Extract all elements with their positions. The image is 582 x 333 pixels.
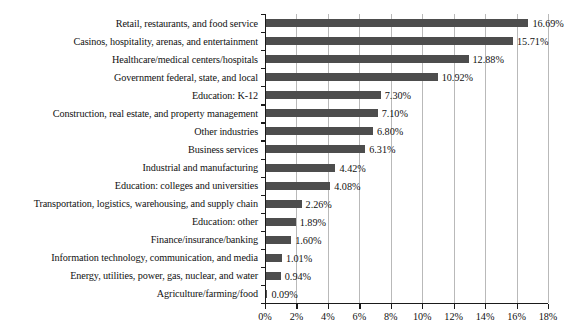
- bar-fill: [266, 127, 373, 135]
- bar-value-label: 15.71%: [517, 36, 548, 47]
- bar-value-label: 4.42%: [339, 162, 365, 173]
- category-label: Education: K-12: [0, 90, 262, 101]
- y-axis-tick: [261, 231, 265, 232]
- bar-fill: [266, 91, 381, 99]
- y-axis-tick: [261, 86, 265, 87]
- bar: 7.10%: [266, 109, 378, 117]
- x-axis-tick: [391, 304, 392, 309]
- category-label: Casinos, hospitality, arenas, and entert…: [0, 36, 262, 47]
- bar-value-label: 1.01%: [286, 252, 312, 263]
- bar-fill: [266, 164, 335, 172]
- x-axis-tick-label: 6%: [353, 311, 367, 322]
- bar-fill: [266, 290, 267, 298]
- bar: 0.94%: [266, 272, 281, 280]
- category-label: Industrial and manufacturing: [0, 162, 262, 173]
- category-label: Government federal, state, and local: [0, 72, 262, 83]
- bar-value-label: 2.26%: [306, 198, 332, 209]
- bar: 1.89%: [266, 218, 296, 226]
- y-axis-tick: [261, 267, 265, 268]
- category-label: Finance/insurance/banking: [0, 234, 262, 245]
- x-axis-tick-label: 14%: [476, 311, 495, 322]
- x-axis-tick-label: 4%: [321, 311, 335, 322]
- x-axis-tick-label: 2%: [290, 311, 304, 322]
- x-axis-tick: [485, 304, 486, 309]
- bar: 16.69%: [266, 19, 528, 27]
- y-axis-tick: [261, 14, 265, 15]
- x-axis-tick: [359, 304, 360, 309]
- y-axis-tick: [261, 50, 265, 51]
- bar-fill: [266, 254, 282, 262]
- bar-fill: [266, 145, 365, 153]
- x-axis-tick-label: 18%: [539, 311, 558, 322]
- y-axis-tick: [261, 104, 265, 105]
- bar: 12.88%: [266, 55, 469, 63]
- y-axis-tick: [261, 285, 265, 286]
- bar: 1.01%: [266, 254, 282, 262]
- bar-value-label: 0.09%: [271, 288, 297, 299]
- y-axis-tick: [261, 32, 265, 33]
- bar-value-label: 16.69%: [532, 18, 563, 29]
- bar-value-label: 0.94%: [285, 270, 311, 281]
- gridline: [548, 14, 549, 303]
- bar: 1.60%: [266, 236, 291, 244]
- y-axis-tick: [261, 68, 265, 69]
- bar: 6.80%: [266, 127, 373, 135]
- y-axis-tick: [261, 177, 265, 178]
- bar-value-label: 10.92%: [442, 72, 473, 83]
- bar-fill: [266, 218, 296, 226]
- x-axis-tick-label: 12%: [444, 311, 463, 322]
- x-axis-labels: 0%2%4%6%8%10%12%14%16%18%: [265, 304, 548, 332]
- bar: 7.30%: [266, 91, 381, 99]
- x-axis-tick-label: 0%: [258, 311, 272, 322]
- bar-value-label: 6.31%: [369, 144, 395, 155]
- bar-value-label: 7.30%: [385, 90, 411, 101]
- bar-fill: [266, 37, 513, 45]
- bar-fill: [266, 200, 302, 208]
- x-axis-tick-label: 10%: [413, 311, 432, 322]
- y-axis-tick: [261, 122, 265, 123]
- bar-fill: [266, 55, 469, 63]
- bar: 15.71%: [266, 37, 513, 45]
- category-label: Business services: [0, 144, 262, 155]
- x-axis-tick: [548, 304, 549, 309]
- x-axis-tick: [296, 304, 297, 309]
- category-label: Transportation, logistics, warehousing, …: [0, 198, 262, 209]
- bar-chart: Retail, restaurants, and food serviceCas…: [0, 0, 582, 333]
- bar: 10.92%: [266, 73, 438, 81]
- y-axis-tick: [261, 159, 265, 160]
- bar-value-label: 1.89%: [300, 216, 326, 227]
- category-label: Information technology, communication, a…: [0, 252, 262, 263]
- category-label: Agriculture/farming/food: [0, 288, 262, 299]
- x-axis-tick: [422, 304, 423, 309]
- bar: 4.42%: [266, 164, 335, 172]
- bar: 6.31%: [266, 145, 365, 153]
- category-label: Healthcare/medical centers/hospitals: [0, 54, 262, 65]
- x-axis-tick-label: 8%: [384, 311, 398, 322]
- gridline: [517, 14, 518, 303]
- y-axis-tick: [261, 140, 265, 141]
- x-axis-tick: [265, 304, 266, 309]
- bar-value-label: 7.10%: [382, 108, 408, 119]
- bar-fill: [266, 182, 330, 190]
- x-axis-tick: [328, 304, 329, 309]
- bar-value-label: 6.80%: [377, 126, 403, 137]
- category-label: Energy, utilities, power, gas, nuclear, …: [0, 270, 262, 281]
- bar-value-label: 4.08%: [334, 180, 360, 191]
- category-label: Retail, restaurants, and food service: [0, 18, 262, 29]
- bar-fill: [266, 272, 281, 280]
- category-axis-labels: Retail, restaurants, and food serviceCas…: [0, 14, 262, 303]
- plot-area: 16.69%15.71%12.88%10.92%7.30%7.10%6.80%6…: [265, 14, 548, 303]
- category-label: Education: colleges and universities: [0, 180, 262, 191]
- bar: 4.08%: [266, 182, 330, 190]
- bar-value-label: 12.88%: [473, 54, 504, 65]
- bar-fill: [266, 19, 528, 27]
- y-axis-tick: [261, 195, 265, 196]
- x-axis-tick-label: 16%: [507, 311, 526, 322]
- bar-fill: [266, 236, 291, 244]
- bar-fill: [266, 73, 438, 81]
- bar-fill: [266, 109, 378, 117]
- category-label: Other industries: [0, 126, 262, 137]
- category-label: Construction, real estate, and property …: [0, 108, 262, 119]
- category-label: Education: other: [0, 216, 262, 227]
- x-axis-tick: [517, 304, 518, 309]
